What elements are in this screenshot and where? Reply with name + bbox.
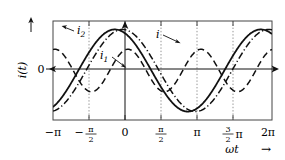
x-tick-three-half-pi-suffix: π (235, 128, 242, 141)
annotation-i-text: i (156, 28, 160, 41)
x-tick-label-zero: 0 (122, 126, 129, 139)
x-axis-label: ωt (225, 143, 239, 156)
y-axis-label-text: i(t) (16, 62, 29, 79)
x-tick-label-two-pi: 2π (261, 126, 275, 139)
x-tick-half-pi-den: 2 (158, 135, 163, 144)
x-tick-half-pi-num: π (158, 125, 163, 134)
x-tick-label-pi: π (193, 126, 200, 139)
waveform-chart: i(t) 0 (0, 0, 285, 160)
x-tick-minus-half-pi-sign: − (74, 126, 83, 139)
x-tick-minus-half-pi-num: π (88, 125, 93, 134)
figure-container: i(t) 0 (0, 0, 285, 160)
x-tick-minus-half-pi-den: 2 (88, 135, 93, 144)
x-tick-three-half-pi-num: 3 (225, 125, 230, 134)
annotation-i2-sub: 2 (80, 30, 86, 39)
x-tick-label-minus-pi: −π (45, 126, 61, 139)
y-axis-label: i(t) (16, 62, 29, 79)
annotation-i1-sub: 1 (104, 55, 109, 64)
x-axis-label-arrow-icon: → (261, 142, 271, 156)
y-zero-tick-label: 0 (38, 63, 45, 76)
